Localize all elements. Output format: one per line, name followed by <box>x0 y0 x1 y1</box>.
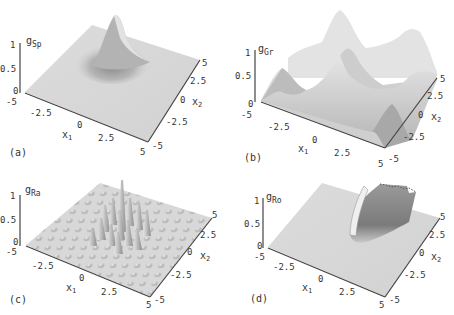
x1-axis-label: x1 <box>298 143 308 156</box>
x1-axis-label: x1 <box>66 282 76 295</box>
x2-tick: -5 <box>389 295 400 305</box>
x2-axis-label: x2 <box>431 251 441 264</box>
x2-axis-label: x2 <box>431 111 441 124</box>
z-tick-0: 0 <box>248 99 253 109</box>
x2-tick: 5 <box>440 74 445 84</box>
z-tick-0: 0 <box>13 237 18 247</box>
figure: 1 0.5 0 gSp -5 -2.5 0 2.5 5 x1 -5 -2.5 0… <box>0 0 454 315</box>
z-tick-0: 0 <box>13 86 18 96</box>
x2-tick: -2.5 <box>166 117 188 127</box>
x1-tick: 2.5 <box>339 287 355 297</box>
x1-tick: -2.5 <box>268 122 290 132</box>
x1-tick: 2.5 <box>98 133 114 143</box>
z-tick-0.5: 0.5 <box>0 215 16 225</box>
x2-tick: -5 <box>154 295 165 305</box>
panel-a: 1 0.5 0 gSp -5 -2.5 0 2.5 5 x1 -5 -2.5 0… <box>0 16 207 158</box>
x1-tick: 5 <box>140 147 145 157</box>
panel-label-b: (b) <box>244 152 262 163</box>
x2-tick: 0 <box>418 110 423 120</box>
x2-axis-label: x2 <box>192 96 202 109</box>
panel-d: 1 0.5 0 gRo -5 -2.5 0 2.5 5 x1 -5 -2.5 0… <box>244 183 445 310</box>
x2-tick: -5 <box>152 141 163 151</box>
z-axis-label: gGr <box>258 43 274 57</box>
panel-c: 1 0.5 0 gRa -5 -2.5 0 2.5 5 x1 -5 -2.5 0… <box>0 180 217 310</box>
z-tick-0.5: 0.5 <box>235 71 251 81</box>
x1-tick: 0 <box>318 274 323 284</box>
x2-tick: 0 <box>187 247 192 257</box>
x1-tick: 5 <box>146 300 151 310</box>
z-tick-0: 0 <box>257 241 262 251</box>
x1-tick: 0 <box>77 120 82 130</box>
x2-tick: -5 <box>388 154 399 164</box>
x2-axis-label: x2 <box>200 250 210 263</box>
x2-tick: 5 <box>212 210 217 220</box>
z-tick-1: 1 <box>10 191 15 201</box>
x2-tick: -2.5 <box>170 270 192 280</box>
x1-axis-label: x1 <box>302 282 312 295</box>
x2-tick: 5 <box>202 58 207 68</box>
x1-tick: 5 <box>379 300 384 310</box>
panel-label-d: (d) <box>250 293 268 304</box>
x1-axis-label: x1 <box>62 129 72 142</box>
x2-tick: -2.5 <box>404 270 426 280</box>
z-tick-0.5: 0.5 <box>0 64 16 74</box>
panel-b: 1 0.5 0 gGr -5 -2.5 0 2.5 5 x1 -5 -2.5 0… <box>235 10 445 169</box>
x2-tick: 2.5 <box>427 91 443 101</box>
x2-tick: -2.5 <box>403 132 425 142</box>
x1-tick: 5 <box>378 159 383 169</box>
x1-tick: -2.5 <box>30 108 52 118</box>
x1-tick: 0 <box>312 135 317 145</box>
panel-label-c: (c) <box>9 294 27 305</box>
x1-tick: 0 <box>79 273 84 283</box>
x1-tick: -2.5 <box>273 262 295 272</box>
x2-tick: 2.5 <box>429 230 445 240</box>
z-tick-1: 1 <box>254 196 259 206</box>
x2-tick: 2.5 <box>190 76 206 86</box>
x2-tick: 0 <box>180 95 185 105</box>
z-axis-label: gSp <box>26 35 42 49</box>
x1-tick: -5 <box>6 247 17 257</box>
x1-tick: 2.5 <box>101 287 117 297</box>
panel-label-a: (a) <box>9 147 27 158</box>
x2-tick: 5 <box>440 212 445 222</box>
x1-tick: -5 <box>254 252 265 262</box>
x1-tick: -2.5 <box>32 261 54 271</box>
x2-tick: 2.5 <box>200 230 216 240</box>
z-tick-0.5: 0.5 <box>244 219 260 229</box>
x1-tick: -5 <box>241 110 252 120</box>
x2-tick: 0 <box>419 248 424 258</box>
z-axis-label: gRo <box>266 191 282 205</box>
z-tick-1: 1 <box>245 48 250 58</box>
x1-tick: -5 <box>6 97 17 107</box>
x1-tick: 2.5 <box>334 148 350 158</box>
z-tick-1: 1 <box>10 40 15 50</box>
z-axis-label: gRa <box>25 184 41 198</box>
